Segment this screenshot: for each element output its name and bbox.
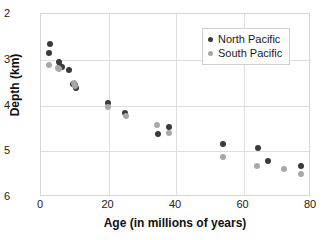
x-axis-tick-label: 40: [163, 199, 187, 210]
data-point: [56, 66, 62, 72]
data-point: [166, 130, 172, 136]
data-point: [255, 145, 261, 151]
scatter-chart: Depth (km) Age (in millions of years) No…: [0, 0, 324, 240]
y-axis-label: Depth (km): [8, 37, 22, 133]
data-point: [166, 124, 172, 130]
gridline-horizontal: [41, 151, 309, 152]
legend-label: North Pacific: [218, 34, 280, 45]
y-axis-tick-label: 2: [0, 8, 10, 19]
x-axis-tick-label: 20: [96, 199, 120, 210]
data-point: [47, 41, 53, 47]
data-point: [123, 113, 129, 119]
x-axis-tick-label: 60: [231, 199, 255, 210]
legend-item-north-pacific: North Pacific: [208, 32, 282, 46]
data-point: [298, 163, 304, 169]
data-point: [46, 50, 52, 56]
data-point: [220, 141, 226, 147]
data-point: [281, 166, 287, 172]
data-point: [46, 62, 52, 68]
data-point: [66, 67, 72, 73]
data-point: [265, 158, 271, 164]
x-axis-tick-label: 0: [28, 199, 52, 210]
x-axis-tick-label: 80: [298, 199, 322, 210]
y-axis-tick-label: 4: [0, 100, 10, 111]
legend-label: South Pacific: [218, 48, 282, 59]
gridline-horizontal: [41, 106, 309, 107]
data-point: [298, 171, 304, 177]
y-axis-tick-label: 5: [0, 145, 10, 156]
data-point: [154, 122, 160, 128]
legend-marker-icon: [208, 51, 213, 56]
data-point: [105, 104, 111, 110]
gridline-vertical: [176, 14, 177, 195]
x-axis-label: Age (in millions of years): [40, 216, 310, 230]
data-point: [155, 131, 161, 137]
chart-legend: North Pacific South Pacific: [202, 28, 290, 65]
y-axis-tick-label: 3: [0, 54, 10, 65]
legend-item-south-pacific: South Pacific: [208, 46, 282, 60]
data-point: [220, 154, 226, 160]
y-axis-tick-label: 6: [0, 191, 10, 202]
legend-marker-icon: [208, 37, 213, 42]
data-point: [254, 163, 260, 169]
